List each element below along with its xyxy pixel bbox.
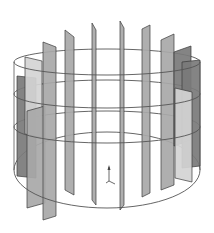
plate-left-front-mid (27, 106, 45, 208)
plate-left-front-tall (43, 42, 56, 220)
cylinder-baffle-diagram (0, 0, 214, 233)
baffle-plates (17, 21, 200, 220)
plate-center-right (120, 21, 124, 210)
diagram-canvas (0, 0, 214, 233)
axis-z-arrow (108, 165, 111, 170)
plate-right-inner (142, 25, 150, 197)
plate-left-inner (65, 30, 74, 195)
plate-center-left (92, 23, 96, 205)
plate-right-mid (161, 34, 174, 190)
axis-x (109, 181, 115, 184)
axis-y (106, 181, 109, 183)
axis-triad-icon (106, 165, 115, 184)
